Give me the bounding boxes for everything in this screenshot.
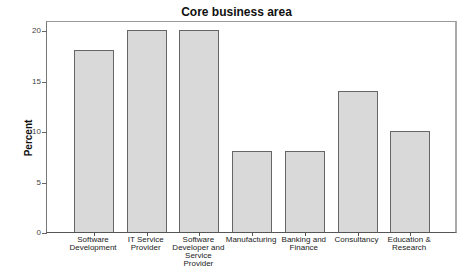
bar	[232, 151, 272, 232]
plot-area: 05101520	[46, 21, 457, 233]
bar	[179, 30, 219, 232]
bar	[127, 30, 167, 232]
x-tick-label: Education & Research	[374, 236, 444, 252]
y-tick-label: 15	[23, 77, 41, 86]
y-axis-label: Percent	[23, 113, 34, 163]
y-tick-label: 0	[23, 228, 41, 237]
y-tick-mark	[42, 82, 47, 83]
bar	[338, 91, 378, 232]
bar	[390, 131, 430, 232]
y-tick-mark	[42, 31, 47, 32]
bar	[74, 50, 114, 232]
y-tick-label: 5	[23, 178, 41, 187]
chart-title: Core business area	[0, 5, 473, 19]
y-tick-label: 10	[23, 127, 41, 136]
bar	[285, 151, 325, 232]
y-tick-mark	[42, 183, 47, 184]
y-tick-mark	[42, 233, 47, 234]
y-tick-label: 20	[23, 26, 41, 35]
y-tick-mark	[42, 132, 47, 133]
